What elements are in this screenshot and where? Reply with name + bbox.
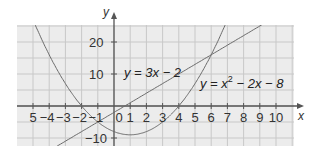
x-tick-label: −2 xyxy=(72,110,87,125)
x-tick-label: 10 xyxy=(269,110,283,125)
line-equation-label: y = 3x − 2 xyxy=(123,65,182,80)
x-tick-label: 5 xyxy=(191,110,198,125)
x-tick-label: 9 xyxy=(256,110,263,125)
x-tick-label: −4 xyxy=(40,110,55,125)
x-tick-label: 7 xyxy=(224,110,231,125)
x-tick-label: −1 xyxy=(88,110,103,125)
x-tick-label: 5 xyxy=(29,110,36,125)
y-axis-label: y xyxy=(102,5,110,19)
x-tick-label: 4 xyxy=(175,110,182,125)
x-tick-label: 0 xyxy=(115,110,122,125)
y-tick-20: 20 xyxy=(89,35,103,50)
x-tick-label: −3 xyxy=(56,110,71,125)
graph: y x 20 10 −10 5−4−3−2−1012345678910 y = … xyxy=(0,0,321,164)
x-axis-label: x xyxy=(297,109,305,123)
parabola-equation-label: y = x2 − 2x − 8 xyxy=(199,74,284,91)
x-tick-label: 6 xyxy=(208,110,215,125)
x-tick-label: 1 xyxy=(127,110,134,125)
x-tick-label: 3 xyxy=(159,110,166,125)
x-tick-label: 2 xyxy=(143,110,150,125)
y-tick-10: 10 xyxy=(89,67,103,82)
y-axis-arrow-icon xyxy=(111,12,117,19)
x-tick-label: 8 xyxy=(240,110,247,125)
y-tick-neg10: −10 xyxy=(85,131,107,146)
